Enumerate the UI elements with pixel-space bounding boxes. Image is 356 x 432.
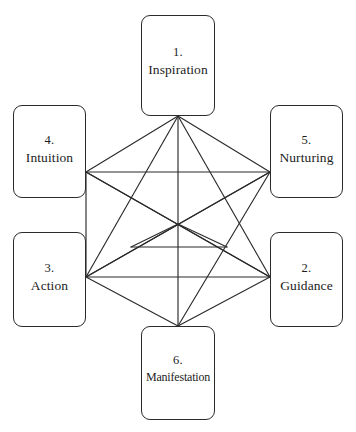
node-action-text: 3. Action [31, 260, 68, 295]
node-guidance[interactable]: 2. Guidance [270, 232, 343, 327]
node-nurturing-label: Nurturing [279, 149, 333, 167]
node-nurturing-number: 5. [302, 132, 312, 149]
edge-1-3 [86, 116, 178, 277]
edge-5-6 [178, 172, 270, 326]
node-manifestation-number: 6. [173, 352, 183, 369]
node-inspiration-text: 1. Inspiration [148, 44, 208, 79]
edge-inner-right [178, 224, 227, 247]
node-action-label: Action [31, 277, 68, 295]
node-intuition[interactable]: 4. Intuition [13, 105, 86, 198]
node-inspiration[interactable]: 1. Inspiration [141, 15, 215, 116]
node-manifestation-text: 6. Manifestation [146, 352, 210, 385]
edge-2-6 [178, 277, 270, 326]
node-intuition-text: 4. Intuition [26, 132, 73, 167]
node-inspiration-label: Inspiration [148, 61, 208, 79]
edge-inner-left [131, 224, 178, 247]
node-guidance-number: 2. [302, 260, 312, 277]
edge-1-5 [178, 116, 270, 172]
node-nurturing[interactable]: 5. Nurturing [270, 105, 343, 198]
node-nurturing-text: 5. Nurturing [279, 132, 333, 167]
node-manifestation-label: Manifestation [146, 369, 210, 385]
node-guidance-text: 2. Guidance [280, 260, 333, 295]
edge-1-4 [86, 116, 178, 172]
edge-3-6 [86, 277, 178, 326]
node-intuition-label: Intuition [26, 149, 73, 167]
node-manifestation[interactable]: 6. Manifestation [141, 326, 215, 420]
node-intuition-number: 4. [45, 132, 55, 149]
node-guidance-label: Guidance [280, 277, 333, 295]
edge-1-2 [178, 116, 270, 277]
node-inspiration-number: 1. [173, 44, 183, 61]
node-action[interactable]: 3. Action [13, 232, 86, 327]
node-action-number: 3. [45, 260, 55, 277]
diagram-canvas: 1. Inspiration 4. Intuition 5. Nurturing… [0, 0, 356, 432]
